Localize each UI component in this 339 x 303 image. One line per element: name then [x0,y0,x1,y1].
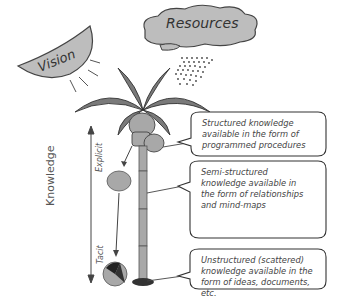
rain-dots [175,57,213,86]
structured-knowledge-callout: Structured knowledge available in the fo… [196,114,324,155]
knowledge-label: Knowledge [44,146,57,206]
explicit-tacit-flow [103,146,132,286]
tacit-knowledge-node [103,262,127,286]
unstructured-knowledge-callout: Unstructured (scattered) knowledge avail… [195,251,325,303]
explicit-label: Explicit [95,143,104,172]
palm-trunk [139,146,147,282]
trunk-base-shadow [132,278,154,286]
tacit-label: Tacit [96,245,105,264]
callout-connectors [147,143,190,281]
knowledge-arrow [88,126,94,283]
explicit-knowledge-node [107,171,131,191]
resources-label: Resources [166,15,238,31]
semi-structured-knowledge-callout: Semi-structured knowledge available in t… [195,163,315,215]
